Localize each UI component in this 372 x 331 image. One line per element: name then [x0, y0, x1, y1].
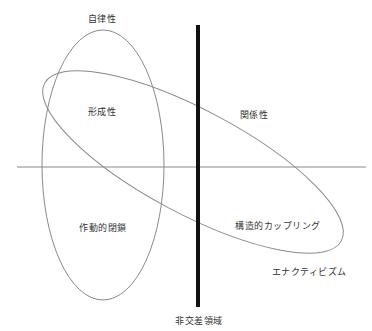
label-formation: 形成性 — [88, 108, 117, 117]
enactivism-ellipse — [20, 37, 365, 287]
label-operational-closure: 作動的閉鎖 — [79, 224, 127, 233]
label-enactivism: エナクティビズム — [272, 268, 347, 277]
label-autonomy: 自律性 — [88, 15, 117, 24]
label-relationality: 関係性 — [240, 111, 269, 120]
label-structural-coupling: 構造的カップリング — [235, 222, 321, 231]
label-non-intersecting-area: 非交差領域 — [175, 317, 223, 326]
autonomy-ellipse — [42, 30, 164, 300]
diagram-canvas — [0, 0, 372, 331]
